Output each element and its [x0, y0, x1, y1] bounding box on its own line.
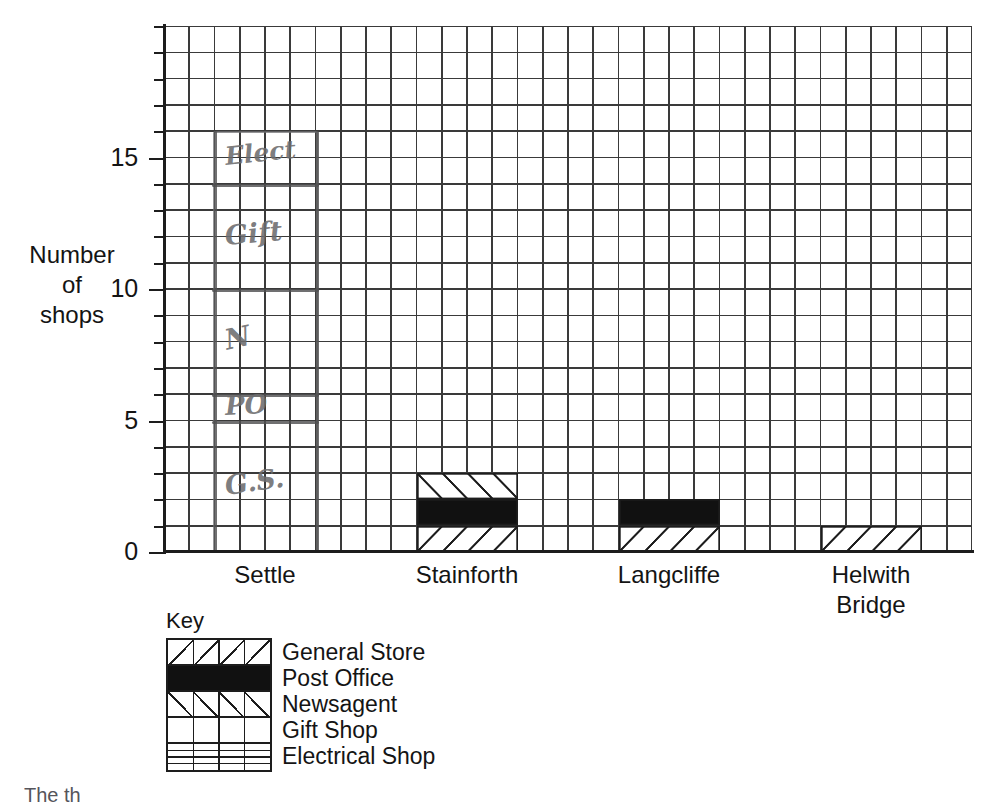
- legend-entry-label: Post Office: [282, 665, 394, 691]
- bar-segment: [821, 526, 922, 552]
- y-tick-label: 5: [78, 408, 138, 433]
- plot-area: ElectGiftNPOG.S.: [164, 26, 972, 552]
- x-axis-category-label-line: Stainforth: [367, 560, 567, 590]
- y-tick-minor: [154, 526, 165, 528]
- legend-title: Key: [166, 608, 204, 634]
- pencil-divider: [212, 184, 319, 187]
- x-axis-category-label-line: Bridge: [771, 590, 971, 620]
- legend-entry-label: Gift Shop: [282, 717, 378, 743]
- legend-swatch: [168, 718, 270, 744]
- y-tick-minor: [154, 368, 165, 370]
- y-tick-minor: [154, 131, 165, 133]
- y-tick-minor: [154, 473, 165, 475]
- x-axis-category-label-line: Helwith: [771, 560, 971, 590]
- legend-entry-label: General Store: [282, 639, 425, 665]
- y-tick-minor: [154, 210, 165, 212]
- bar-segment: [619, 526, 720, 552]
- legend-swatch: [168, 640, 270, 666]
- y-tick-major: [149, 421, 165, 423]
- x-axis-category-label: Settle: [165, 560, 365, 590]
- y-axis-title-line-1: Number: [12, 240, 132, 270]
- legend-swatch: [168, 666, 270, 692]
- pencil-divider: [212, 289, 319, 292]
- x-axis-category-label: Langcliffe: [569, 560, 769, 590]
- y-tick-minor: [154, 263, 165, 265]
- pencil-divider: [212, 421, 319, 424]
- x-axis-category-label-line: Settle: [165, 560, 365, 590]
- y-tick-minor: [154, 447, 165, 449]
- y-axis-title-line-2: of: [12, 270, 132, 300]
- x-axis-category-label-line: Langcliffe: [569, 560, 769, 590]
- bar-segment: [417, 526, 518, 552]
- y-tick-minor: [154, 499, 165, 501]
- legend-swatch: [168, 744, 270, 770]
- y-axis-title-line-3: shops: [12, 300, 132, 330]
- bar-segment: [619, 499, 720, 525]
- x-axis-line: [163, 550, 974, 553]
- pencil-side-left: [214, 131, 217, 552]
- cut-off-caption: The th: [24, 784, 81, 806]
- y-axis-title: Number of shops: [12, 240, 132, 330]
- x-axis-category-label: HelwithBridge: [771, 560, 971, 620]
- pencil-label: PO: [224, 389, 268, 421]
- y-tick-minor: [154, 52, 165, 54]
- y-tick-major: [149, 552, 165, 554]
- y-tick-label: 15: [78, 145, 138, 170]
- y-tick-minor: [154, 79, 165, 81]
- legend-entry-label: Newsagent: [282, 691, 397, 717]
- y-tick-minor: [154, 105, 165, 107]
- x-axis-category-label: Stainforth: [367, 560, 567, 590]
- y-tick-minor: [154, 315, 165, 317]
- y-tick-minor: [154, 26, 165, 28]
- y-tick-minor: [154, 236, 165, 238]
- legend-entry-label: Electrical Shop: [282, 743, 435, 769]
- y-tick-minor: [154, 184, 165, 186]
- bar-segment: [417, 499, 518, 525]
- pencil-side-right: [316, 131, 319, 552]
- y-tick-minor: [154, 394, 165, 396]
- pencil-label: Gift: [223, 215, 283, 251]
- y-tick-minor: [154, 342, 165, 344]
- y-tick-label: 0: [78, 539, 138, 564]
- legend-swatch: [168, 692, 270, 718]
- legend-swatch-stack: [166, 638, 272, 772]
- bar-segment: [417, 473, 518, 499]
- y-tick-major: [149, 289, 165, 291]
- y-tick-major: [149, 158, 165, 160]
